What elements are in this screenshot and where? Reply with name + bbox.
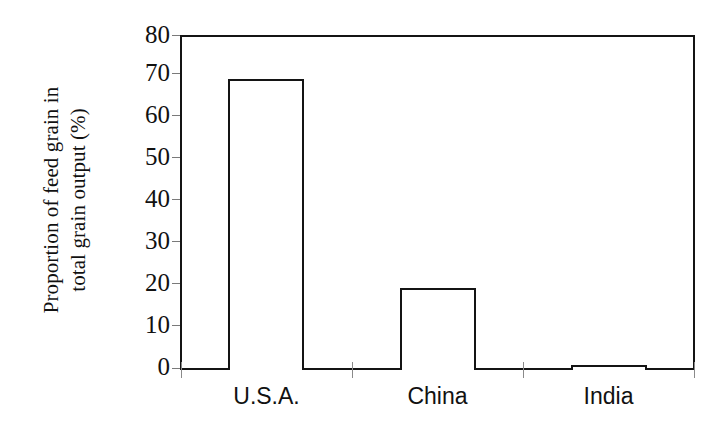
x-tick-label-usa: U.S.A. <box>181 385 352 408</box>
y-axis-title-line-2: total grain output (%) <box>65 108 92 292</box>
x-tick-mark-2 <box>523 362 524 378</box>
y-tick-label-40: 40 <box>116 186 170 211</box>
y-tick-label-0: 0 <box>116 354 170 379</box>
x-tick-mark-3 <box>694 362 695 378</box>
x-tick-mark-1 <box>352 362 353 378</box>
bar-china <box>400 288 476 370</box>
y-axis-tick-labels: 80 70 60 50 40 30 20 10 0 <box>116 0 170 436</box>
y-tick-label-60: 60 <box>116 102 170 127</box>
x-tick-label-china: China <box>352 385 523 408</box>
bar-usa <box>228 79 304 370</box>
y-tick-label-30: 30 <box>116 228 170 253</box>
y-tick-label-10: 10 <box>116 312 170 337</box>
y-tick-label-20: 20 <box>116 270 170 295</box>
y-tick-label-50: 50 <box>116 144 170 169</box>
x-tick-mark-0 <box>181 362 182 378</box>
bar-chart-figure: Proportion of feed grain in total grain … <box>0 0 728 436</box>
y-axis-title-line-1: Proportion of feed grain in <box>38 87 65 314</box>
y-axis-title: Proportion of feed grain in total grain … <box>33 30 97 370</box>
x-tick-label-india: India <box>523 385 694 408</box>
bar-india <box>571 365 647 370</box>
y-tick-label-80: 80 <box>116 22 170 47</box>
y-tick-label-70: 70 <box>116 60 170 85</box>
